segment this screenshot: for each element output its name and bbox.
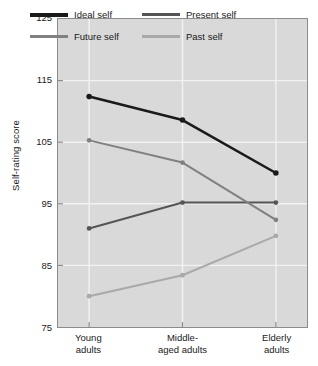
data-point [87, 294, 92, 299]
data-point [87, 138, 92, 143]
data-point [273, 170, 279, 176]
x-tick-label-line: adults [40, 344, 136, 356]
y-tick-label: 105 [18, 137, 52, 147]
self-rating-line-chart: Self-rating score 125115105958575 Ideal … [0, 0, 318, 366]
x-tick-label-line: Young [40, 332, 136, 344]
plot-area [57, 18, 308, 328]
legend-line-swatch-icon [30, 35, 68, 38]
data-point [180, 200, 185, 205]
x-tick-label: Youngadults [40, 332, 136, 355]
data-point [180, 273, 185, 278]
x-tick-label: Middle-aged adults [135, 332, 231, 355]
x-tick-label-line: Middle- [135, 332, 231, 344]
x-axis-tick-labels: YoungadultsMiddle-aged adultsElderlyadul… [57, 332, 308, 366]
y-tick-label: 115 [18, 75, 52, 85]
legend-label: Present self [186, 10, 236, 20]
data-point [273, 217, 278, 222]
legend-item-future-self: Future self [30, 32, 136, 42]
y-tick-label: 95 [18, 199, 52, 209]
legend-line-swatch-icon [30, 13, 68, 17]
x-tick-label-line: adults [229, 344, 318, 356]
plot-canvas [58, 19, 307, 327]
legend-label: Ideal self [74, 10, 112, 20]
legend-label: Future self [74, 32, 119, 42]
data-point [180, 160, 185, 165]
data-point [87, 226, 92, 231]
data-point [86, 94, 92, 100]
legend-item-past-self: Past self [142, 32, 248, 42]
data-point [273, 200, 278, 205]
chart-legend: Ideal selfPresent selfFuture selfPast se… [30, 10, 248, 41]
data-point [180, 117, 186, 123]
legend-item-ideal-self: Ideal self [30, 10, 136, 20]
x-tick-label-line: aged adults [135, 344, 231, 356]
x-tick-label: Elderlyadults [229, 332, 318, 355]
y-axis-tick-labels: 125115105958575 [18, 0, 52, 366]
legend-line-swatch-icon [142, 35, 180, 38]
legend-item-present-self: Present self [142, 10, 248, 20]
y-tick-label: 85 [18, 261, 52, 271]
data-point [273, 233, 278, 238]
legend-line-swatch-icon [142, 13, 180, 16]
x-tick-label-line: Elderly [229, 332, 318, 344]
legend-label: Past self [186, 32, 222, 42]
